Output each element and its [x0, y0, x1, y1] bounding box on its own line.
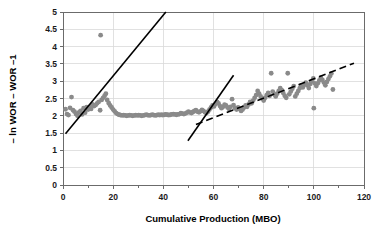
chart-figure: 00.511.522.533.544.55020406080100120 Cum…: [0, 0, 384, 232]
x-tick-label: 20: [108, 192, 118, 202]
data-point: [285, 71, 290, 76]
y-axis-title: – ln WOR – WOR –1: [7, 54, 18, 144]
y-tick-label: 1: [52, 145, 57, 155]
y-tick-label: 3: [52, 76, 57, 86]
trend-lines: [66, 12, 354, 141]
y-tick-label: 5: [52, 7, 57, 17]
y-tick-label: 0: [52, 180, 57, 190]
y-tick-label: 4: [52, 42, 57, 52]
y-tick-label: 2.5: [45, 94, 57, 104]
data-points: [63, 33, 335, 118]
y-tick-label: 1.5: [45, 128, 57, 138]
data-point: [103, 91, 108, 96]
x-tick-label: 60: [209, 192, 219, 202]
data-point: [63, 107, 68, 112]
x-axis-title: Cumulative Production (MBO): [145, 213, 280, 224]
data-point: [98, 108, 103, 113]
y-tick-label: 2: [52, 111, 57, 121]
y-tick-label: 0.5: [45, 163, 57, 173]
x-tick-label: 0: [61, 192, 66, 202]
x-tick-label: 120: [357, 192, 371, 202]
data-point: [330, 87, 335, 92]
data-point: [98, 33, 103, 38]
data-point: [269, 71, 274, 76]
data-point: [306, 86, 311, 91]
x-tick-label: 80: [259, 192, 269, 202]
data-point: [69, 95, 74, 100]
data-point: [311, 106, 316, 111]
x-tick-label: 40: [159, 192, 169, 202]
data-point: [66, 113, 71, 118]
y-tick-label: 3.5: [45, 59, 57, 69]
scatter-chart-svg: 00.511.522.533.544.55020406080100120 Cum…: [0, 0, 384, 232]
data-point: [230, 97, 235, 102]
y-tick-label: 4.5: [45, 24, 57, 34]
x-tick-label: 100: [307, 192, 321, 202]
